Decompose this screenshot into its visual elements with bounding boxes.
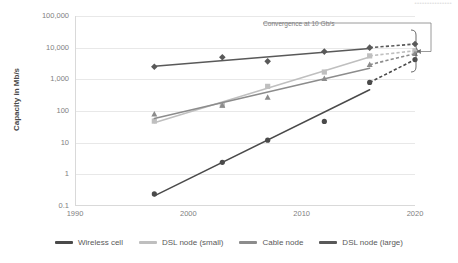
legend-item-dsl-node-large[interactable]: DSL node (large)	[319, 238, 403, 247]
data-point-diamond	[412, 41, 419, 48]
data-point-circle	[367, 80, 372, 85]
data-point-triangle	[151, 111, 157, 117]
data-point-square	[265, 84, 270, 89]
data-point-circle	[265, 138, 270, 143]
data-point-triangle	[265, 94, 271, 100]
data-point-circle	[220, 160, 225, 165]
data-point-circle	[322, 119, 327, 124]
series-layer	[0, 0, 458, 263]
trend-line	[154, 57, 369, 123]
legend-label: Cable node	[262, 238, 303, 247]
legend-swatch-icon	[239, 241, 257, 244]
data-point-circle	[412, 57, 417, 62]
leader-path	[263, 23, 431, 52]
data-point-circle	[152, 191, 157, 196]
convergence-annotation: Convergence at 10 Gb/s	[263, 20, 334, 27]
data-point-diamond	[366, 44, 373, 51]
legend-item-dsl-node-small[interactable]: DSL node (small)	[139, 238, 224, 247]
data-point-square	[322, 69, 327, 74]
data-point-square	[152, 118, 157, 123]
data-point-diamond	[151, 63, 158, 70]
data-point-diamond	[264, 58, 271, 65]
legend-item-wireless-cell[interactable]: Wireless cell	[55, 238, 123, 247]
legend-swatch-icon	[319, 241, 337, 244]
projection-line	[370, 44, 415, 48]
legend-swatch-icon	[139, 241, 157, 244]
series-dsl-node-small	[152, 48, 418, 124]
legend-swatch-icon	[55, 241, 73, 244]
series-cable-node	[151, 50, 418, 118]
data-point-diamond	[219, 54, 226, 61]
series-wireless-cell	[152, 57, 418, 197]
data-point-diamond	[321, 48, 328, 55]
data-point-square	[367, 53, 372, 58]
trend-line	[154, 68, 369, 118]
trend-line	[154, 48, 369, 66]
trend-line	[154, 90, 369, 196]
legend-label: DSL node (small)	[162, 238, 224, 247]
legend-item-cable-node[interactable]: Cable node	[239, 238, 303, 247]
legend-label: Wireless cell	[78, 238, 123, 247]
chart-legend: Wireless cellDSL node (small)Cable nodeD…	[0, 238, 458, 247]
legend-label: DSL node (large)	[342, 238, 403, 247]
chart-page: ••••••••••••••• Capacity in Mb/s 100,000…	[0, 0, 458, 263]
